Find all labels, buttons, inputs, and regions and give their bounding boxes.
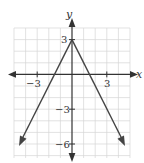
y-tick-label-3: 3 <box>61 34 67 45</box>
x-tick-label-3: 3 <box>104 78 110 89</box>
x-axis-label: x <box>136 68 143 81</box>
y-axis-down-arrow-icon <box>69 153 76 162</box>
graph: y x −3 3 3 −3 −6 <box>0 0 144 163</box>
right-branch <box>72 40 122 139</box>
x-axis-left-arrow-icon <box>8 71 16 78</box>
x-tick-label-neg3: −3 <box>26 78 41 89</box>
left-branch <box>22 40 72 139</box>
y-axis-label: y <box>65 8 73 21</box>
y-tick-label-neg6: −6 <box>55 139 70 150</box>
y-tick-label-neg3: −3 <box>55 104 70 115</box>
